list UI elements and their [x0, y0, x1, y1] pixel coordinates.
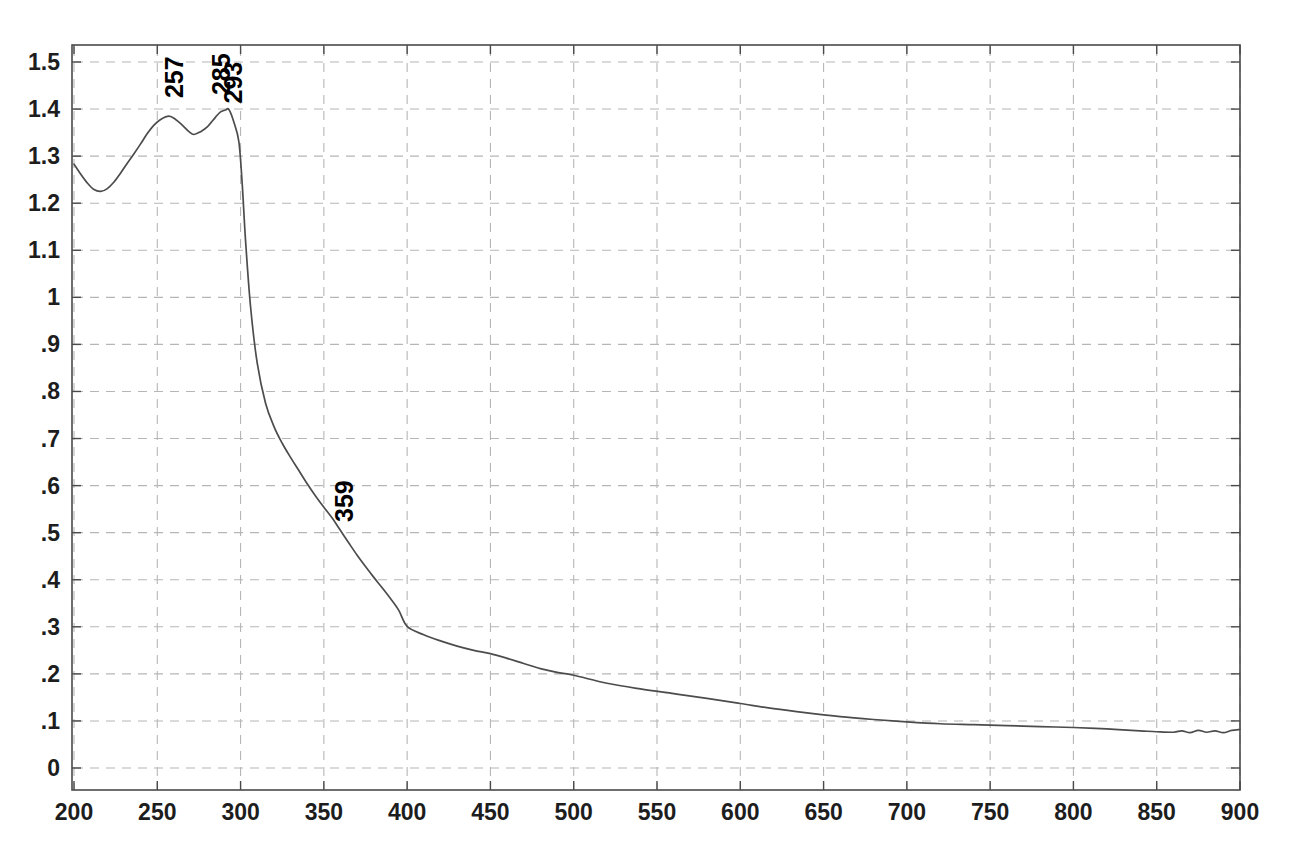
y-tick-label: .5	[41, 520, 60, 546]
x-axis-tick-labels: 2002503003504004505005506006507007508008…	[55, 799, 1259, 825]
y-tick-label: .8	[41, 378, 60, 404]
spectrum-chart: 2002503003504004505005506006507007508008…	[0, 0, 1298, 867]
y-tick-label: .9	[41, 331, 60, 357]
x-tick-label: 450	[471, 799, 509, 825]
peak-label: 257	[160, 56, 188, 98]
y-tick-label: 0	[47, 755, 60, 781]
x-tick-label: 500	[555, 799, 593, 825]
y-tick-label: 1.3	[28, 143, 60, 169]
y-tick-label: .7	[41, 426, 60, 452]
x-tick-label: 350	[305, 799, 343, 825]
x-tick-label: 300	[221, 799, 259, 825]
x-tick-label: 700	[888, 799, 926, 825]
chart-background	[0, 0, 1298, 867]
x-tick-label: 900	[1221, 799, 1259, 825]
x-tick-label: 400	[388, 799, 426, 825]
y-tick-label: .4	[41, 567, 60, 593]
x-tick-label: 800	[1054, 799, 1092, 825]
peak-label: 293	[219, 62, 247, 104]
x-tick-label: 850	[1138, 799, 1176, 825]
y-tick-label: .6	[41, 473, 60, 499]
y-tick-label: 1.5	[28, 49, 60, 75]
x-tick-label: 200	[55, 799, 93, 825]
y-tick-label: 1.1	[28, 237, 60, 263]
y-tick-label: .1	[41, 708, 60, 734]
y-tick-label: 1	[47, 284, 60, 310]
chart-canvas: 2002503003504004505005506006507007508008…	[0, 0, 1298, 867]
x-tick-label: 600	[721, 799, 759, 825]
y-tick-label: .3	[41, 614, 60, 640]
x-tick-label: 750	[971, 799, 1009, 825]
y-tick-label: 1.2	[28, 190, 60, 216]
x-tick-label: 250	[138, 799, 176, 825]
peak-label: 359	[330, 480, 358, 522]
y-tick-label: .2	[41, 661, 60, 687]
y-tick-label: 1.4	[28, 96, 60, 122]
x-tick-label: 650	[804, 799, 842, 825]
x-tick-label: 550	[638, 799, 676, 825]
